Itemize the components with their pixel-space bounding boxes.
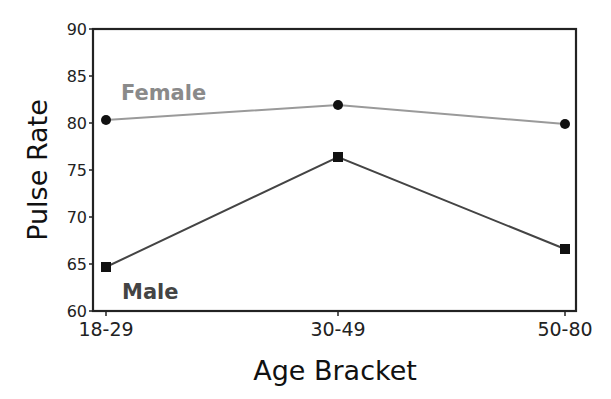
series-female: Female [101,81,570,129]
data-point-circle [560,119,570,129]
y-axis-title: Pulse Rate [22,99,53,241]
x-axis: 18-29 30-49 50-80 [78,311,592,340]
x-tick-label: 18-29 [78,318,133,340]
y-tick-label: 85 [67,67,87,86]
x-tick-label: 50-80 [537,318,592,340]
plot-frame [93,29,576,311]
series-label-female: Female [121,81,206,105]
data-point-square [333,152,343,162]
y-axis: 90 85 80 75 70 65 60 [67,20,93,321]
series-male: Male [101,152,570,304]
x-tick-label: 30-49 [310,318,365,340]
line-chart: 90 85 80 75 70 65 60 18-29 30-49 50-80 A… [0,0,611,399]
data-point-circle [333,100,343,110]
y-tick-label: 65 [67,255,87,274]
y-tick-label: 80 [67,114,87,133]
y-tick-label: 75 [67,161,87,180]
data-point-circle [101,115,111,125]
y-tick-label: 70 [67,208,87,227]
y-tick-label: 90 [67,20,87,39]
data-point-square [101,262,111,272]
data-point-square [560,244,570,254]
series-label-male: Male [122,280,179,304]
x-axis-title: Age Bracket [253,355,417,386]
